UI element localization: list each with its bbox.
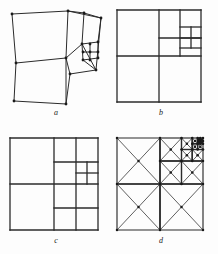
mesh-vertex [89,51,92,54]
panel-b [115,8,207,108]
mesh-vertex [180,160,183,163]
mesh-vertex [191,137,194,140]
mesh-vertex [202,148,205,151]
mesh-vertex [191,143,194,146]
mesh-vertex [180,206,183,209]
mesh-vertex [198,141,201,144]
mesh-vertex [137,206,140,209]
mesh-vertex [202,183,205,186]
mesh-vertex [97,57,100,60]
mesh-vertex [137,160,140,163]
mesh-edge [12,14,16,63]
mesh-edge [66,58,70,74]
mesh-vertex [170,171,173,174]
panel-b-label: b [115,108,207,118]
mesh-vertex [67,10,70,13]
mesh-vertex [159,229,162,232]
mesh-edge [83,60,96,70]
panel-c-diagram [8,136,104,236]
mesh-vertex [11,13,14,16]
panel-d-diagram [115,136,207,236]
mesh-vertex [194,140,197,143]
mesh-vertex [170,148,173,151]
mesh-vertex [180,148,183,151]
mesh-vertex [198,138,201,141]
mesh-vertex [15,62,18,65]
mesh-vertex [199,145,202,148]
mesh-edge [82,44,96,70]
mesh-vertex [97,51,100,54]
mesh-vertex [95,69,98,72]
mesh-edge [12,11,68,14]
mesh-edge [16,58,66,63]
mesh-vertex [97,41,100,44]
panel-c-label: c [8,236,104,246]
mesh-vertex [82,51,85,54]
mesh-vertex [83,12,86,15]
mesh-edge [66,44,82,58]
mesh-edge [70,70,96,74]
mesh-vertex [159,183,162,186]
mesh-edge [66,74,70,104]
mesh-vertex [116,229,119,232]
panel-a-label: a [8,108,104,118]
mesh-vertex [81,43,84,46]
figure-root: a b c d [0,0,218,254]
mesh-edge [84,13,101,18]
mesh-vertex [65,103,68,106]
mesh-vertex [194,145,197,148]
mesh-vertex [100,17,103,20]
mesh-edge [14,101,66,104]
panel-b-diagram [115,8,207,108]
mesh-vertex [191,148,194,151]
mesh-vertex [159,160,162,163]
mesh-vertex [180,137,183,140]
mesh-vertex [202,229,205,232]
mesh-edge [14,63,16,101]
mesh-vertex [196,148,199,151]
panel-d [115,136,207,236]
panel-c [8,136,104,236]
mesh-vertex [200,138,203,141]
mesh-vertex [186,154,189,157]
mesh-vertex [191,171,194,174]
mesh-vertex [89,43,92,46]
mesh-vertex [200,141,203,144]
panel-a-diagram [8,8,104,108]
mesh-vertex [69,73,72,76]
mesh-vertex [116,183,119,186]
mesh-vertex [116,137,119,140]
mesh-vertex [180,183,183,186]
mesh-vertex [191,160,194,163]
mesh-edge [82,13,84,44]
mesh-vertex [186,143,189,146]
mesh-vertex [13,100,16,103]
panel-d-label: d [115,236,207,246]
mesh-vertex [82,59,85,62]
mesh-vertex [65,57,68,60]
mesh-vertex [202,160,205,163]
mesh-vertex [89,59,92,62]
mesh-vertex [159,137,162,140]
mesh-vertex [196,154,199,157]
mesh-edge [66,11,68,58]
panel-a [8,8,104,108]
